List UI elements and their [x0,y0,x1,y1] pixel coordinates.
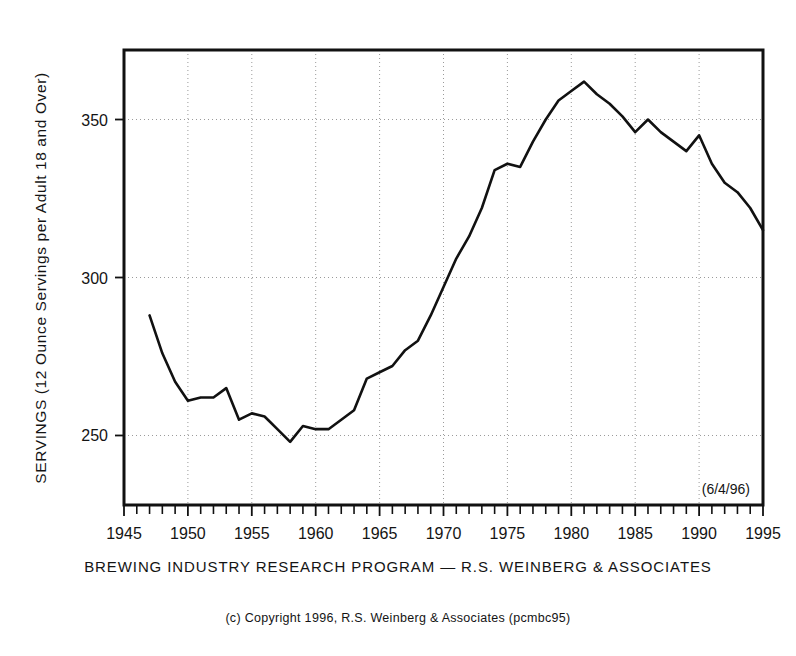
x-tick-label: 1995 [745,525,781,542]
line-chart: 250300350 194519501955196019651970197519… [0,0,796,656]
y-tick-label: 300 [81,270,108,287]
date-stamp-annotation: (6/4/96) [702,481,750,497]
x-tick-label: 1965 [362,525,398,542]
x-tick-label: 1990 [681,525,717,542]
x-tick-label: 1955 [234,525,270,542]
chart-figure: 250300350 194519501955196019651970197519… [0,0,796,656]
x-tick-label: 1970 [426,525,462,542]
x-tick-label: 1975 [490,525,526,542]
y-tick-label: 250 [81,427,108,444]
y-axis-label: SERVINGS (12 Ounce Servings per Adult 18… [32,72,49,483]
y-tick-label: 350 [81,112,108,129]
source-caption: BREWING INDUSTRY RESEARCH PROGRAM — R.S.… [84,558,712,575]
x-tick-label: 1980 [554,525,590,542]
copyright-caption: (c) Copyright 1996, R.S. Weinberg & Asso… [225,611,570,625]
x-tick-label: 1950 [170,525,206,542]
x-tick-label: 1985 [617,525,653,542]
x-tick-label: 1960 [298,525,334,542]
x-tick-label: 1945 [106,525,142,542]
